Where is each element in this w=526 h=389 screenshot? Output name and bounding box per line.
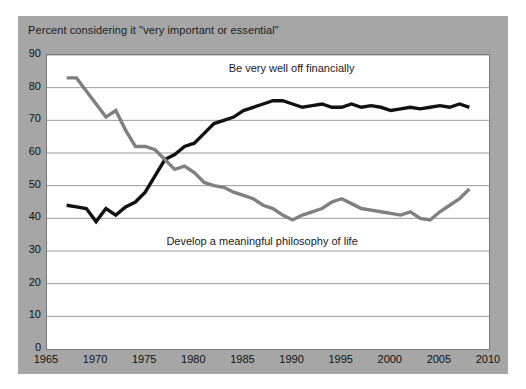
y-tick-20: 20 bbox=[17, 276, 41, 288]
x-tick-1970: 1970 bbox=[75, 353, 115, 365]
chart-svg bbox=[47, 55, 489, 349]
x-tick-1995: 1995 bbox=[321, 353, 361, 365]
x-tick-1985: 1985 bbox=[222, 353, 262, 365]
y-tick-30: 30 bbox=[17, 243, 41, 255]
y-tick-40: 40 bbox=[17, 210, 41, 222]
x-tick-2000: 2000 bbox=[370, 353, 410, 365]
y-tick-60: 60 bbox=[17, 145, 41, 157]
series-annotation-0: Be very well off financially bbox=[229, 62, 355, 74]
series-line-0 bbox=[67, 101, 470, 222]
x-tick-1990: 1990 bbox=[272, 353, 312, 365]
y-tick-70: 70 bbox=[17, 112, 41, 124]
series-lines bbox=[67, 78, 470, 222]
y-tick-50: 50 bbox=[17, 178, 41, 190]
x-tick-2005: 2005 bbox=[419, 353, 459, 365]
x-tick-1980: 1980 bbox=[173, 353, 213, 365]
x-tick-1975: 1975 bbox=[124, 353, 164, 365]
y-tick-80: 80 bbox=[17, 80, 41, 92]
series-annotation-1: Develop a meaningful philosophy of life bbox=[166, 235, 357, 247]
series-line-1 bbox=[67, 78, 470, 220]
x-tick-2010: 2010 bbox=[468, 353, 508, 365]
x-tick-1965: 1965 bbox=[26, 353, 66, 365]
chart-caption: Percent considering it "very important o… bbox=[28, 24, 279, 36]
gridlines bbox=[47, 55, 489, 316]
y-tick-0: 0 bbox=[17, 341, 41, 353]
chart-figure: Percent considering it "very important o… bbox=[18, 16, 508, 374]
y-tick-90: 90 bbox=[17, 47, 41, 59]
y-tick-10: 10 bbox=[17, 308, 41, 320]
plot-area bbox=[46, 54, 490, 350]
